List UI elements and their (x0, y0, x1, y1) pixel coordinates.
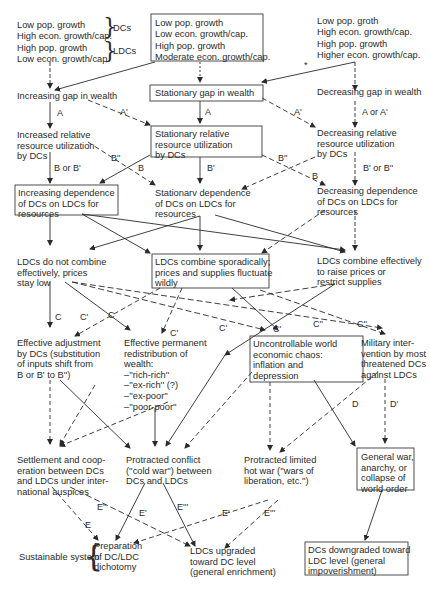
edge-label-a-prime-right: A' (294, 107, 302, 117)
center-line3: High pop. growth (155, 41, 225, 51)
node-cold-war: Protracted conflict (''cold war'') betwe… (126, 455, 212, 487)
edge-label-d-prime: D' (390, 399, 398, 409)
center-line4: Moderate econ. growth/cap. (155, 52, 270, 62)
edge-label-a-left: A (57, 108, 63, 118)
edge-label-b-dbl-center: B'' (278, 153, 287, 163)
edge-label-b-center: B (312, 171, 318, 181)
right-scenario: Low pop. groth High econ. growth/cap. (317, 16, 412, 37)
node-ldc-sporadic: LDCs combine sporadically; prices and su… (155, 257, 272, 289)
edge-label-e-dbl: E'' (97, 502, 106, 512)
edge-label-e: E (85, 520, 91, 530)
node-dep-decreasing: Decreasing dependence of DCs on LDCs for… (317, 186, 418, 218)
edge-label-c-prime-2: C' (170, 328, 178, 338)
edge-label-c-1: C (55, 312, 62, 322)
edge-label-b-left: B (138, 163, 144, 173)
node-chaos: Uncontrollable world economic chaos: inf… (253, 339, 337, 381)
edge-label-a-prime-left: A' (120, 107, 128, 117)
node-military: Military inter- vention by most threaten… (361, 338, 426, 380)
left-ldc-line2: Low econ. growth/cap. (17, 54, 110, 64)
edge-label-c-prime-3: C' (219, 323, 227, 333)
edge-label-a-center: A (205, 107, 211, 117)
node-util-stationary: Stationary relative resource utilization… (155, 129, 233, 161)
node-ldc-not-combine: LDCs do not combine effectively, prices … (17, 257, 106, 289)
node-gap-increasing: Increasing gap in wealth (17, 91, 117, 102)
node-hot-war: Protracted limited hot war (''wars of li… (244, 455, 316, 487)
left-dc-line1: Low pop. growth (17, 20, 85, 30)
node-settlement: Settlement and coop- eration between DCs… (17, 455, 108, 497)
ldc-tag: LDCs (113, 46, 136, 57)
center-scenario-ldc: High pop. growth Moderate econ. growth/c… (155, 41, 270, 62)
edge-label-d: D (352, 399, 359, 409)
right-line2: High econ. growth/cap. (317, 27, 412, 37)
right-scenario-ldc: High pop. growth Higher econ. growth/cap… (317, 39, 420, 60)
node-dep-increasing: Increasing dependence of DCs on LDCs for… (18, 188, 115, 220)
edge-label-c-2: C (108, 310, 115, 320)
right-line4: Higher econ. growth/cap. (317, 50, 420, 60)
node-ldc-effective: LDCs combine effectively to raise prices… (317, 256, 422, 288)
edge-label-b-dbl-left: B'' (111, 153, 120, 163)
dc-tag: DCs (113, 23, 131, 34)
edge-label-b-prime-center: B' (207, 163, 215, 173)
node-redistribution: Effective permanent redistribution of we… (124, 338, 207, 412)
edge-label-a-or-a-prime: A or A' (362, 107, 388, 117)
node-ldc-upgraded: LDCs upgraded toward DC level (general e… (190, 546, 276, 578)
edge-label-e-prime-2: E' (222, 508, 230, 518)
node-dep-stationary: Stationarv dependence of DCs on LDCs for… (155, 188, 251, 220)
right-line1: Low pop. groth (317, 16, 379, 26)
left-dc-profile: Low pop. growth High econ. growth/cap. (17, 20, 112, 41)
edge-label-asterisk: * (304, 60, 308, 70)
center-scenario: Low pop. growth Low econ. growth/cap. (155, 18, 248, 39)
node-util-decreasing: Decreasing relative resource utilization… (317, 128, 397, 160)
edge-label-b-or-b-prime: B or B' (54, 163, 81, 173)
node-dc-downgraded: DCs downgraded toward LDC level (general… (308, 545, 410, 577)
edge-label-c-dbl-2: C'' (357, 319, 367, 329)
node-gap-stationary: Stationary gap in wealth (155, 88, 254, 99)
center-line1: Low pop. growth (155, 18, 223, 28)
node-util-increased: Increased relative resource utilization … (17, 130, 95, 162)
node-adjustment: Effective adjustment by DCs (substitutio… (17, 338, 101, 380)
node-dichotomy: Preparation of DC/LDC dichotomy (94, 541, 142, 573)
edge-label-e-triple-1: E''' (177, 502, 188, 512)
left-dc-line2: High econ. growth/cap. (17, 31, 112, 41)
edge-label-c-dbl: C'' (313, 319, 323, 329)
node-gap-decreasing: Decreasing gap in wealth (317, 87, 421, 98)
edge-label-e-prime-1: E' (139, 508, 147, 518)
left-ldc-profile: High pop. growth Low econ. growth/cap. (17, 43, 110, 64)
center-line2: Low econ. growth/cap. (155, 29, 248, 39)
left-ldc-line1: High pop. growth (17, 43, 87, 53)
node-general-war: General war, anarchy, or collapse of wor… (361, 452, 414, 494)
right-line3: High pop. growth (317, 39, 387, 49)
edge-label-c-prime-1: C' (80, 312, 88, 322)
edge-label-b-prime-or-b-dbl: B' or B'' (363, 163, 393, 173)
edge-label-c-prime-4: C' (273, 324, 281, 334)
edge-label-e-triple-2: E''' (264, 508, 275, 518)
